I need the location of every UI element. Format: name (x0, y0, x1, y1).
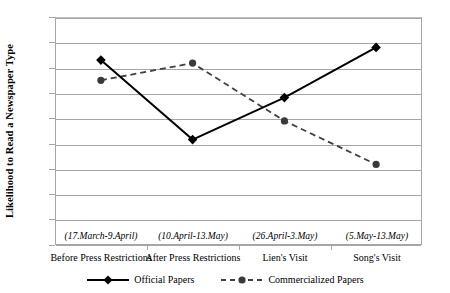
chart-legend: Official Papers Commercialized Papers (0, 274, 450, 286)
x-axis-divider (239, 245, 240, 250)
line-chart: Likelihood to Read a Newspaper Type 0.45… (0, 0, 450, 293)
x-axis-category-label: After Press Restrictions (141, 252, 245, 264)
x-axis-category-label: Before Press Restrictions (47, 252, 155, 264)
x-axis-category-label: Lien's Visit (239, 252, 331, 264)
y-tick-mark (49, 68, 55, 69)
gridline (56, 145, 421, 146)
gridline (56, 195, 421, 196)
gridline (56, 170, 421, 171)
y-tick-mark (49, 144, 55, 145)
legend-label: Official Papers (134, 274, 194, 286)
x-axis-date-label: (5.May-13.May) (331, 231, 423, 242)
y-axis-title: Likelihood to Read a Newspaper Type (0, 0, 18, 17)
x-axis-category-label: Song's Visit (331, 252, 423, 264)
gridline (56, 18, 421, 19)
y-axis-title-text: Likelihood to Read a Newspaper Type (4, 44, 15, 218)
gridline (56, 69, 421, 70)
y-tick-mark (49, 118, 55, 119)
x-axis-divider (331, 245, 332, 250)
gridline (56, 220, 421, 221)
y-tick-mark (49, 194, 55, 195)
y-tick-mark (49, 93, 55, 94)
legend-item-commercialized-papers[interactable]: Commercialized Papers (220, 274, 363, 286)
y-tick-mark (49, 17, 55, 18)
y-tick-mark (49, 42, 55, 43)
solid-diamond-key-icon (86, 274, 130, 286)
y-tick-mark (49, 169, 55, 170)
x-axis-date-label: (26.April-3.May) (239, 231, 331, 242)
legend-item-official-papers[interactable]: Official Papers (86, 274, 194, 286)
plot-area (55, 17, 422, 245)
y-tick-mark (49, 219, 55, 220)
gridline (56, 94, 421, 95)
x-axis-divider (147, 245, 148, 250)
x-axis-date-label: (17.March-9.April) (55, 231, 147, 242)
gridline (56, 43, 421, 44)
legend-label: Commercialized Papers (268, 274, 363, 286)
gridline (56, 119, 421, 120)
dashed-circle-key-icon (220, 274, 264, 286)
y-tick-mark (49, 245, 55, 246)
x-axis-date-label: (10.April-13.May) (147, 231, 239, 242)
